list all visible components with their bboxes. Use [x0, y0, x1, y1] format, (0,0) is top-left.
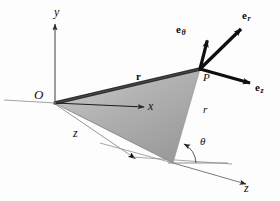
z-axis-lower-label: z — [244, 182, 249, 194]
angle-theta-label: θ — [200, 136, 205, 147]
origin-label: O — [34, 88, 43, 101]
point-p-marker — [198, 67, 201, 70]
e-r-subscript: r — [247, 14, 250, 23]
x-axis-label: x — [148, 100, 153, 112]
e-theta-subscript: θ — [181, 28, 185, 37]
shaded-plane — [55, 69, 200, 163]
theta-angle-arc — [184, 144, 196, 163]
position-vector-r-label: r — [136, 71, 141, 82]
e-z-subscript: z — [260, 86, 263, 95]
z-axis-upper-label: z — [73, 127, 78, 139]
y-axis-label: y — [54, 6, 59, 18]
radius-r-label: r — [203, 104, 207, 115]
ground-reference-line-left — [4, 100, 56, 103]
e-theta-label: eθ — [176, 24, 186, 37]
point-p-label: P — [203, 72, 210, 83]
cylindrical-coordinates-diagram: y x z z O P r eθ er ez r θ — [0, 0, 280, 201]
e-z-label: ez — [255, 82, 264, 95]
e-r-label: er — [242, 10, 251, 23]
